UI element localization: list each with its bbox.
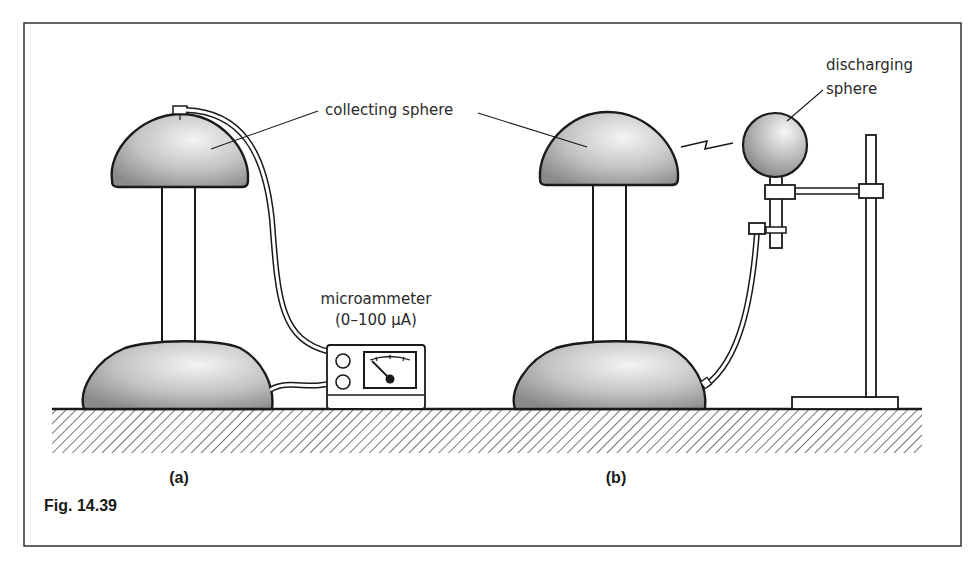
collecting-sphere-label: collecting sphere [325, 101, 453, 119]
van-de-graaff-figure: collecting sphere microammeter (0–100 μA… [0, 0, 973, 571]
discharging-sphere [743, 113, 807, 177]
figure-caption: Fig. 14.39 [44, 497, 117, 514]
ground [52, 409, 922, 453]
microammeter-label: microammeter [321, 290, 433, 308]
panel-b-label: (b) [606, 469, 626, 486]
microammeter [327, 345, 425, 409]
microammeter-range-label: (0–100 μA) [335, 311, 417, 329]
terminal-top [336, 354, 350, 368]
discharging-label-line1: discharging [826, 56, 913, 74]
discharging-label-line2: sphere [826, 80, 877, 98]
terminal-bottom [336, 375, 350, 389]
figure-frame [24, 23, 961, 546]
panel-a-label: (a) [169, 469, 189, 486]
